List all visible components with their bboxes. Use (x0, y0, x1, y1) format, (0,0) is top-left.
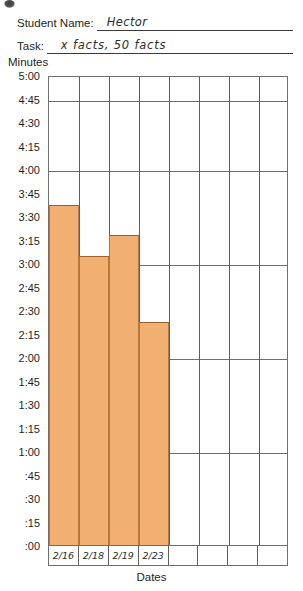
x-axis-date-cell[interactable] (198, 546, 228, 565)
x-axis-title: Dates (0, 571, 303, 583)
gridline-vertical (169, 77, 170, 545)
bar[interactable] (139, 322, 169, 545)
chart-grid (48, 76, 288, 546)
x-axis-date-cell[interactable]: 2/19 (109, 546, 139, 565)
gridline-horizontal (49, 171, 287, 172)
y-tick-label: :45 (25, 470, 40, 482)
student-name-field-row: Student Name: Hector (0, 8, 303, 31)
form-header: Student Name: Hector Task: x facts, 50 f… (0, 8, 303, 54)
y-tick-label: 5:00 (19, 70, 40, 82)
x-axis-date-cell[interactable] (258, 546, 287, 565)
x-axis-date-cell[interactable]: 2/23 (139, 546, 169, 565)
gridline-vertical (199, 77, 200, 545)
y-tick-label: 3:45 (19, 188, 40, 200)
y-tick-label: 4:15 (19, 141, 40, 153)
y-tick-label: 2:45 (19, 282, 40, 294)
gridline-vertical (229, 77, 230, 545)
x-axis-date-cell[interactable] (169, 546, 199, 565)
x-axis-date-cell[interactable] (228, 546, 258, 565)
y-axis-tick-labels: 5:004:454:304:154:003:453:303:153:002:45… (0, 76, 44, 546)
scan-artifact (4, 0, 15, 8)
y-tick-label: :00 (25, 540, 40, 552)
task-value: x facts, 50 facts (61, 38, 167, 52)
y-tick-label: 3:00 (19, 258, 40, 270)
task-input[interactable]: x facts, 50 facts (47, 36, 293, 54)
x-axis-date-cell[interactable]: 2/16 (49, 546, 79, 565)
y-axis-title: Minutes (8, 56, 48, 68)
task-field-row: Task: x facts, 50 facts (0, 31, 303, 54)
x-axis-date-cell[interactable]: 2/18 (79, 546, 109, 565)
y-tick-label: :30 (25, 493, 40, 505)
y-tick-label: 1:30 (19, 399, 40, 411)
bar-chart (48, 76, 288, 546)
y-tick-label: 4:45 (19, 94, 40, 106)
y-tick-label: 2:30 (19, 305, 40, 317)
y-tick-label: 3:30 (19, 211, 40, 223)
bar[interactable] (49, 205, 79, 545)
gridline-vertical (259, 77, 260, 545)
y-tick-label: 3:15 (19, 235, 40, 247)
y-tick-label: 2:15 (19, 329, 40, 341)
y-tick-label: 1:15 (19, 423, 40, 435)
y-tick-label: 1:00 (19, 446, 40, 458)
y-tick-label: 4:00 (19, 164, 40, 176)
x-axis-date-cells: 2/162/182/192/23 (48, 546, 288, 566)
gridline-horizontal (49, 101, 287, 102)
student-name-value: Hector (107, 15, 148, 29)
student-name-label: Student Name: (17, 17, 94, 31)
bar[interactable] (109, 235, 139, 545)
bar[interactable] (79, 256, 109, 545)
student-name-input[interactable]: Hector (97, 13, 293, 31)
task-label: Task: (17, 40, 44, 54)
y-tick-label: 2:00 (19, 352, 40, 364)
y-tick-label: :15 (25, 517, 40, 529)
y-tick-label: 4:30 (19, 117, 40, 129)
y-tick-label: 1:45 (19, 376, 40, 388)
